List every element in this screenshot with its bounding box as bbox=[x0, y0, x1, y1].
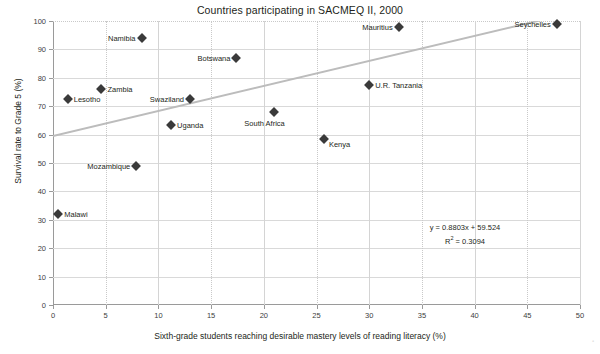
data-point-label: Kenya bbox=[329, 139, 350, 148]
x-axis-tick-mark bbox=[475, 305, 476, 309]
regression-equation: y = 0.8803x + 59.524 bbox=[395, 222, 535, 233]
y-axis-tick-mark bbox=[49, 163, 53, 164]
x-axis-tick-label: 30 bbox=[354, 311, 384, 320]
x-axis-tick-mark bbox=[264, 305, 265, 309]
x-axis-title: Sixth-grade students reaching desirable … bbox=[0, 331, 600, 341]
x-axis-tick-mark bbox=[580, 305, 581, 309]
gridline-vertical bbox=[527, 21, 528, 305]
x-axis-tick-label: 0 bbox=[38, 311, 68, 320]
chart-root: Countries participating in SACMEQ II, 20… bbox=[0, 0, 600, 354]
gridline-vertical bbox=[369, 21, 370, 305]
x-axis-tick-mark bbox=[317, 305, 318, 309]
data-point-label: Lesotho bbox=[74, 95, 101, 104]
y-axis-tick-mark bbox=[49, 49, 53, 50]
y-axis-tick-label: 0 bbox=[18, 301, 46, 310]
gridline-vertical bbox=[580, 21, 581, 305]
y-axis-tick-label: 10 bbox=[18, 273, 46, 282]
y-axis-tick-mark bbox=[49, 248, 53, 249]
x-axis-tick-mark bbox=[422, 305, 423, 309]
y-axis-tick-mark bbox=[49, 135, 53, 136]
data-point-label: Zambia bbox=[107, 85, 132, 94]
x-axis-tick-label: 20 bbox=[249, 311, 279, 320]
x-axis-tick-label: 25 bbox=[302, 311, 332, 320]
x-axis-tick-label: 5 bbox=[91, 311, 121, 320]
gridline-vertical bbox=[264, 21, 265, 305]
x-axis-tick-label: 45 bbox=[512, 311, 542, 320]
data-point-label: U.R. Tanzania bbox=[375, 80, 422, 89]
x-axis-tick-label: 50 bbox=[565, 311, 595, 320]
y-axis-tick-label: 20 bbox=[18, 244, 46, 253]
data-point-label: Seychelles bbox=[515, 19, 551, 28]
x-axis-tick-label: 40 bbox=[460, 311, 490, 320]
data-point-label: Swaziland bbox=[150, 95, 184, 104]
data-point-label: Uganda bbox=[177, 120, 203, 129]
data-point-label: Malawi bbox=[64, 210, 87, 219]
y-axis-tick-label: 30 bbox=[18, 216, 46, 225]
regression-r-squared: R2 = 0.3094 bbox=[395, 233, 535, 247]
gridline-vertical bbox=[158, 21, 159, 305]
x-axis-tick-mark bbox=[527, 305, 528, 309]
plot-area: MalawiLesothoZambiaMozambiqueNamibiaUgan… bbox=[53, 21, 580, 305]
x-axis-tick-mark bbox=[53, 305, 54, 309]
y-axis-tick-mark bbox=[49, 21, 53, 22]
corner-mark: ▫ bbox=[592, 338, 594, 344]
x-axis-tick-label: 15 bbox=[196, 311, 226, 320]
y-axis-tick-mark bbox=[49, 191, 53, 192]
x-axis-tick-mark bbox=[211, 305, 212, 309]
y-axis-tick-mark bbox=[49, 78, 53, 79]
gridline-vertical bbox=[422, 21, 423, 305]
y-axis-tick-mark bbox=[49, 106, 53, 107]
data-point-label: Namibia bbox=[108, 34, 136, 43]
regression-annotation: y = 0.8803x + 59.524 R2 = 0.3094 bbox=[395, 222, 535, 247]
data-point-label: South Africa bbox=[244, 118, 284, 127]
x-axis-tick-label: 35 bbox=[407, 311, 437, 320]
data-point-label: Mauritius bbox=[362, 22, 392, 31]
gridline-vertical bbox=[317, 21, 318, 305]
x-axis-tick-mark bbox=[369, 305, 370, 309]
gridline-vertical bbox=[475, 21, 476, 305]
data-point-label: Mozambique bbox=[87, 161, 130, 170]
gridline-vertical bbox=[211, 21, 212, 305]
x-axis-tick-label: 10 bbox=[143, 311, 173, 320]
y-axis-tick-label: 100 bbox=[18, 17, 46, 26]
y-axis-title: Survival rate to Grade 5 (%) bbox=[13, 51, 23, 211]
x-axis-tick-mark bbox=[158, 305, 159, 309]
data-point-label: Botswana bbox=[197, 53, 230, 62]
chart-title: Countries participating in SACMEQ II, 20… bbox=[0, 4, 600, 16]
r2-value: = 0.3094 bbox=[453, 237, 485, 246]
x-axis-tick-mark bbox=[106, 305, 107, 309]
y-axis-tick-mark bbox=[49, 220, 53, 221]
y-axis-tick-mark bbox=[49, 277, 53, 278]
